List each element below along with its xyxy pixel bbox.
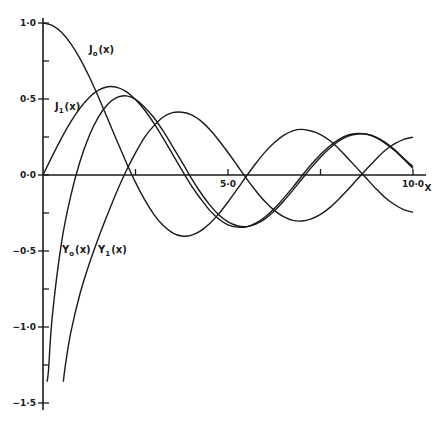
y-tick-label: −1·5 bbox=[13, 398, 36, 408]
curve-y0x bbox=[47, 96, 413, 382]
y-tick-label: 1·0 bbox=[20, 18, 36, 28]
y-tick-label: −0·5 bbox=[13, 246, 36, 256]
x-tick-label: 5·0 bbox=[220, 179, 236, 189]
axes: 1·00·50·0−0·5−1·0−1·55·010·0X bbox=[13, 18, 432, 410]
y-tick-label: 0·0 bbox=[20, 170, 36, 180]
label-y1x: Y1(x) bbox=[97, 244, 127, 258]
x-tick-label: 10·0 bbox=[402, 179, 424, 189]
bessel-function-chart: 1·00·50·0−0·5−1·0−1·55·010·0X Jo(x)J1(x)… bbox=[0, 0, 447, 431]
y-tick-label: −1·0 bbox=[13, 322, 36, 332]
label-y0x: Yo(x) bbox=[61, 244, 91, 258]
x-axis-label: X bbox=[425, 183, 432, 193]
curves bbox=[43, 23, 413, 382]
label-j0x: Jo(x) bbox=[88, 44, 114, 58]
curve-j1x bbox=[43, 87, 413, 228]
y-tick-label: 0·5 bbox=[20, 94, 36, 104]
